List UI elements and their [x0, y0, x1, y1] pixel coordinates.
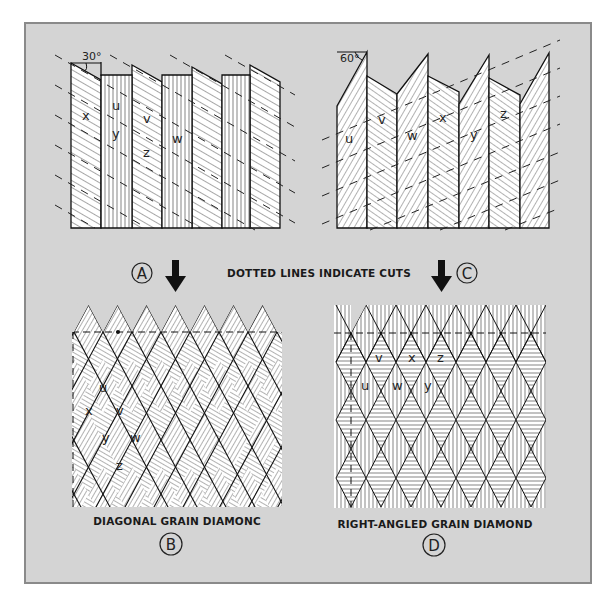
panel-d-letter-v: v	[375, 350, 383, 365]
panel-a-letter-z: z	[143, 145, 150, 160]
panel-b-diamonds	[30, 305, 300, 521]
panel-b-letter-y: y	[102, 430, 110, 445]
panel-d-diamonds	[334, 305, 546, 508]
panel-a-label: A	[137, 265, 148, 283]
panel-c-letter-u: u	[345, 131, 353, 146]
panel-c-label: C	[462, 265, 472, 283]
panel-a-letter-u: u	[112, 98, 120, 113]
panel-d-title: RIGHT-ANGLED GRAIN DIAMOND	[337, 518, 532, 530]
panel-a-letter-x: x	[82, 108, 90, 123]
panel-c-strips	[322, 40, 560, 230]
arrow-down-icon-left	[165, 260, 186, 292]
panel-b-letter-w: w	[130, 430, 141, 445]
arrow-down-icon-right	[431, 260, 452, 292]
panel-b-letter-u: u	[99, 380, 107, 395]
panel-c-letter-w: w	[407, 128, 418, 143]
panel-b-letter-z: z	[116, 458, 123, 473]
panel-b-label: B	[166, 536, 176, 554]
panel-d-letter-u: u	[361, 378, 369, 393]
panel-d-letter-z: z	[437, 350, 444, 365]
panel-b-title: DIAGONAL GRAIN DIAMONC	[93, 515, 261, 527]
panel-d-letter-w: w	[392, 378, 403, 393]
panel-c-letter-x: x	[439, 110, 447, 125]
panel-a-angle-label: 30°	[82, 50, 102, 63]
panel-b-letter-x: x	[85, 403, 93, 418]
cuts-caption: DOTTED LINES INDICATE CUTS	[227, 267, 411, 279]
panel-a-letter-v: v	[143, 111, 151, 126]
panel-a-letter-y: y	[112, 126, 120, 141]
panel-b-letter-v: v	[116, 403, 124, 418]
panel-d-label: D	[428, 537, 440, 555]
panel-c-letter-y: y	[470, 127, 478, 142]
panel-c-letter-z: z	[500, 106, 507, 121]
panel-d-letter-y: y	[424, 378, 432, 393]
panel-a-letter-w: w	[172, 131, 183, 146]
panel-c-angle-label: 60°	[340, 52, 360, 65]
panel-d-letter-x: x	[408, 350, 416, 365]
marquetry-diagram: 30° x u y v z w 60° u v w x y z A	[0, 0, 615, 606]
panel-c-letter-v: v	[378, 112, 386, 127]
